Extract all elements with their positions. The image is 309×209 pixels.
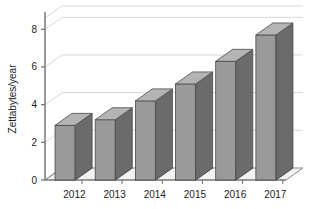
y-axis-label: Zettabytes/year bbox=[7, 64, 18, 134]
bar-2015 bbox=[176, 72, 213, 180]
bar-side-face bbox=[155, 89, 172, 180]
bar-front-face bbox=[55, 125, 75, 180]
chart-canvas: 02468 201220132014201520162017 Zettabyte… bbox=[0, 0, 309, 209]
bar-2016 bbox=[216, 49, 253, 180]
x-tick-label-2012: 2012 bbox=[63, 189, 86, 200]
y-tick-label-8: 8 bbox=[31, 24, 37, 35]
bar-side-face bbox=[196, 72, 213, 180]
bar-front-face bbox=[95, 120, 115, 180]
x-tick-label-2013: 2013 bbox=[103, 189, 126, 200]
x-tick-label-2017: 2017 bbox=[264, 189, 287, 200]
y-tick-label-0: 0 bbox=[31, 175, 37, 186]
bar-side-face bbox=[236, 49, 253, 180]
bar-side-face bbox=[276, 23, 293, 180]
y-tick-label-2: 2 bbox=[31, 137, 37, 148]
bar-chart: 02468 201220132014201520162017 Zettabyte… bbox=[0, 0, 309, 209]
bar-front-face bbox=[216, 61, 236, 180]
x-tick-label-2016: 2016 bbox=[224, 189, 247, 200]
bar-2012 bbox=[55, 113, 92, 180]
x-tick-label-2015: 2015 bbox=[184, 189, 207, 200]
bar-front-face bbox=[176, 84, 196, 180]
bar-2017 bbox=[256, 23, 293, 180]
x-tick-label-2014: 2014 bbox=[144, 189, 167, 200]
y-axis-title: Zettabytes/year bbox=[7, 64, 18, 134]
y-tick-label-6: 6 bbox=[31, 61, 37, 72]
y-tick-label-4: 4 bbox=[31, 99, 37, 110]
bar-2013 bbox=[95, 108, 132, 180]
bar-side-face bbox=[115, 108, 132, 180]
bar-front-face bbox=[135, 101, 155, 180]
bar-front-face bbox=[256, 35, 276, 180]
bar-2014 bbox=[135, 89, 172, 180]
